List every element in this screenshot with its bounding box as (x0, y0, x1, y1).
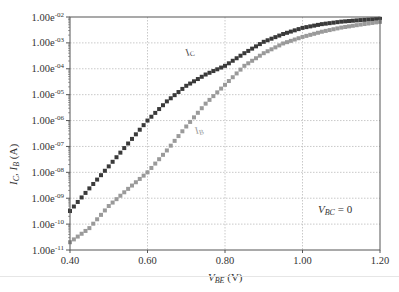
y-tick-label: 1.00e-04 (32, 62, 65, 74)
y-tick-label: 1.00e-06 (32, 114, 65, 126)
ic-curve-label: IC (184, 45, 196, 60)
y-tick-label: 1.00e-03 (32, 36, 65, 48)
x-tick-label: 1.00 (293, 255, 311, 266)
y-tick-label: 1.00e-07 (32, 140, 65, 152)
x-tick-label: 0.80 (216, 255, 234, 266)
y-axis-ticks: 1.00e-111.00e-101.00e-091.00e-081.00e-07… (32, 11, 70, 256)
y-tick-label: 1.00e-10 (32, 218, 65, 230)
iv-characteristic-chart: 1.00e-111.00e-101.00e-091.00e-081.00e-07… (0, 0, 399, 292)
y-tick-label: 1.00e-09 (32, 192, 65, 204)
y-tick-label: 1.00e-11 (32, 244, 65, 256)
ib-curve-label: IB (194, 123, 205, 138)
x-tick-label: 1.20 (371, 255, 389, 266)
y-tick-label: 1.00e-08 (32, 166, 65, 178)
y-tick-label: 1.00e-02 (32, 11, 65, 23)
page-divider (0, 276, 399, 277)
annotation-vbc: VBC = 0 (318, 203, 353, 217)
series-ic (68, 17, 382, 213)
y-axis-title: IC, IB (A) (7, 144, 21, 186)
y-tick-label: 1.00e-05 (32, 88, 65, 100)
x-axis-ticks: 0.400.600.801.001.20 (61, 250, 389, 266)
x-tick-label: 0.40 (61, 255, 79, 266)
x-tick-label: 0.60 (138, 255, 156, 266)
x-axis-title: VBE (V) (208, 271, 243, 285)
